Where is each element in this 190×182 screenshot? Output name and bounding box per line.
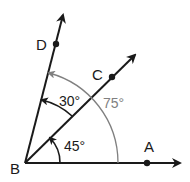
angle-diagram: B A C D 45° 30° 75° [0, 0, 190, 182]
point-d [53, 41, 59, 47]
label-c: C [92, 66, 103, 83]
label-d: D [36, 36, 47, 53]
angle-label-45: 45° [64, 138, 85, 154]
arc-45 [50, 138, 60, 163]
angle-label-30: 30° [59, 93, 80, 109]
angle-label-75: 75° [103, 95, 124, 111]
label-b: B [10, 160, 20, 177]
point-c [109, 74, 115, 80]
label-a: A [144, 138, 154, 155]
point-a [144, 160, 150, 166]
